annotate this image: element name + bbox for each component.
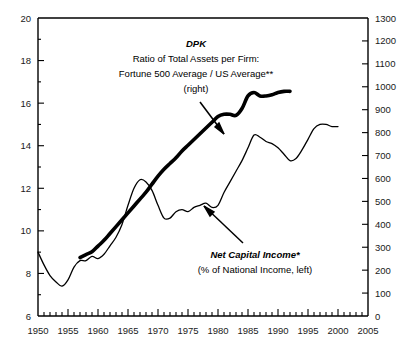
dpk-annotation-line-1: Ratio of Total Assets per Firm: [133, 53, 260, 64]
dpk-annotation-line-0: DPK [186, 38, 207, 49]
right-axis-tick-label: 1300 [375, 13, 396, 24]
nci-annotation-line-0: Net Capital Income* [210, 249, 301, 260]
left-axis-tick-label: 10 [20, 225, 31, 236]
right-axis-tick-label: 500 [375, 196, 391, 207]
right-axis-tick-label: 0 [375, 311, 380, 322]
x-axis-tick-label: 1975 [177, 325, 198, 336]
right-axis-tick-label: 900 [375, 104, 391, 115]
x-axis-tick-label: 1955 [57, 325, 78, 336]
chart-figure: 68101214161820 0100200300400500600700800… [0, 0, 420, 355]
x-axis-tick-label: 1965 [117, 325, 138, 336]
x-axis-tick-label: 1990 [267, 325, 288, 336]
left-axis-tick-label: 8 [26, 268, 31, 279]
dual-axis-line-chart: 68101214161820 0100200300400500600700800… [0, 0, 420, 355]
right-axis-tick-label: 1200 [375, 35, 396, 46]
x-axis-tick-label: 1985 [237, 325, 258, 336]
left-axis-tick-label: 18 [20, 55, 31, 66]
dpk-annotation-line-2: Fortune 500 Average / US Average** [119, 68, 274, 79]
x-axis-tick-label: 1970 [147, 325, 168, 336]
left-axis-tick-label: 6 [26, 311, 31, 322]
nci-annotation-line-1: (% of National Income, left) [198, 264, 313, 275]
left-axis-tick-label: 14 [20, 140, 31, 151]
right-axis-tick-label: 700 [375, 150, 391, 161]
right-axis-tick-label: 200 [375, 265, 391, 276]
left-axis-tick-label: 12 [20, 183, 31, 194]
x-axis-tick-label: 1950 [27, 325, 48, 336]
left-axis-tick-label: 20 [20, 13, 31, 24]
x-axis-tick-label: 1995 [297, 325, 318, 336]
dpk-annotation-line-3: (right) [184, 83, 209, 94]
x-axis-tick-label: 1960 [87, 325, 108, 336]
right-axis-tick-label: 1000 [375, 81, 396, 92]
right-axis-tick-label: 300 [375, 242, 391, 253]
right-axis-tick-label: 400 [375, 219, 391, 230]
x-axis-tick-label: 2005 [357, 325, 378, 336]
x-axis-tick-label: 1980 [207, 325, 228, 336]
right-axis-tick-label: 800 [375, 127, 391, 138]
right-axis-tick-label: 600 [375, 173, 391, 184]
x-axis-tick-label: 2000 [327, 325, 348, 336]
right-axis-tick-label: 1100 [375, 58, 395, 69]
left-axis-tick-label: 16 [20, 98, 31, 109]
right-axis-tick-label: 100 [375, 288, 391, 299]
